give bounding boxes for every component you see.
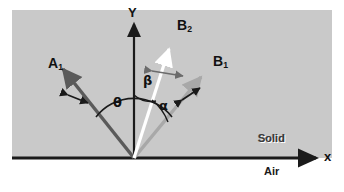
media-label-air: Air [264, 166, 279, 177]
x-axis-label: x [324, 150, 331, 163]
angle-label-beta: β [143, 74, 152, 87]
y-axis-label: Y [128, 6, 137, 19]
figure-canvas: A1 B2 B1 θ β α Y x Solid Air [0, 0, 344, 192]
ray-label-b2: B2 [177, 18, 192, 34]
angle-label-theta: θ [113, 96, 122, 109]
media-label-solid: Solid [258, 133, 285, 144]
angle-label-alpha: α [159, 99, 168, 112]
scattering-diagram [0, 0, 344, 192]
ray-label-a1: A1 [48, 56, 63, 72]
ray-label-b1: B1 [213, 54, 228, 70]
